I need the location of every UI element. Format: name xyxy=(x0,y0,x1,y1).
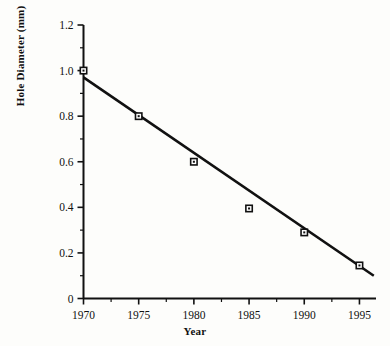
scatter-plot: 00.20.40.60.81.01.2 19701975198019851990… xyxy=(0,0,390,346)
x-axis-tick-labels: 197019751980198519901995 xyxy=(72,309,371,321)
trend-line-segment xyxy=(84,77,374,275)
plot-axes xyxy=(84,25,377,299)
x-tick-label: 1980 xyxy=(182,309,205,321)
y-tick-label: 0.4 xyxy=(59,201,74,213)
y-tick-label: 1.0 xyxy=(59,65,74,77)
x-tick-label: 1995 xyxy=(348,309,371,321)
x-axis-title: Year xyxy=(0,325,390,337)
x-tick-label: 1985 xyxy=(238,309,261,321)
y-tick-label: 0.8 xyxy=(59,110,74,122)
data-point-center xyxy=(358,264,360,266)
data-point-center xyxy=(138,115,140,117)
y-tick-label: 0.2 xyxy=(59,247,74,259)
y-tick-label: 0.6 xyxy=(59,156,74,168)
x-tick-label: 1990 xyxy=(293,309,316,321)
data-point-center xyxy=(248,207,250,209)
data-point-center xyxy=(83,70,85,72)
chart-figure: 00.20.40.60.81.01.2 19701975198019851990… xyxy=(0,0,390,346)
y-axis-tick-labels: 00.20.40.60.81.01.2 xyxy=(59,19,74,305)
data-point-center xyxy=(303,231,305,233)
data-point-center xyxy=(193,161,195,163)
trend-line xyxy=(84,77,374,275)
y-axis-title: Hole Diameter (mm) xyxy=(14,0,26,136)
x-tick-label: 1975 xyxy=(127,309,150,321)
y-tick-label: 1.2 xyxy=(59,19,74,31)
y-tick-label: 0 xyxy=(68,293,74,305)
x-tick-label: 1970 xyxy=(72,309,95,321)
